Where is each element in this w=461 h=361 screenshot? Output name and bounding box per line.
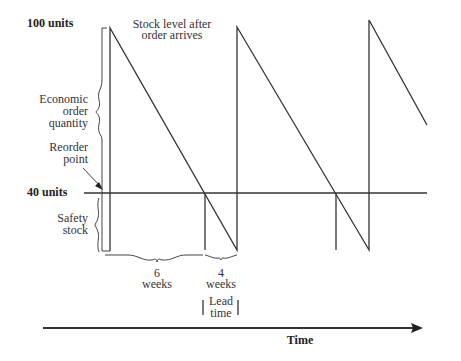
inventory-diagram: 100 units 40 units Stock level after ord…	[0, 0, 461, 361]
usage-period-brace	[105, 255, 203, 262]
stock-after-label-line2: order arrives	[142, 28, 203, 42]
safety-stock-brace	[95, 198, 99, 252]
max-level-label: 100 units	[27, 16, 74, 30]
usage-period-unit: weeks	[142, 277, 172, 291]
reorder-point-label-line2: point	[63, 152, 88, 166]
reorder-level-label: 40 units	[27, 185, 68, 199]
lead-time-label-line2: time	[210, 306, 231, 320]
safety-stock-label-line2: stock	[63, 223, 88, 237]
stock-level-sawtooth	[110, 20, 427, 251]
lead-period-brace	[205, 255, 237, 260]
lead-period-unit: weeks	[206, 277, 236, 291]
eoq-label-line3: quantity	[49, 116, 88, 130]
reorder-arrow-icon	[83, 168, 103, 190]
time-axis-arrow-icon	[43, 323, 423, 333]
time-axis-label: Time	[287, 333, 314, 347]
